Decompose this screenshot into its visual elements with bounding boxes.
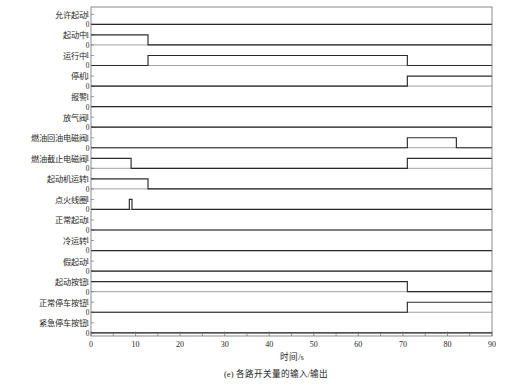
y-tick-high-8: 1: [86, 175, 90, 184]
y-tick-low-14: 0: [86, 308, 90, 317]
x-tick-label-2: 20: [176, 340, 184, 349]
x-tick-label-3: 30: [221, 340, 229, 349]
signal-label-12: 假起动: [63, 257, 87, 267]
signal-label-4: 报警: [71, 92, 87, 102]
y-tick-high-12: 1: [86, 257, 90, 266]
signal-label-15: 紧急停车按钮: [39, 318, 87, 328]
row-labels-layer: 允许起动起动中运行中停机报警放气阀燃油回油电磁阀燃油截止电磁阀起动机运转点火线圈…: [31, 10, 88, 328]
x-tick-label-5: 50: [310, 340, 318, 349]
x-tick-label-1: 10: [132, 340, 140, 349]
y-tick-high-11: 1: [86, 236, 90, 245]
y-tick-low-9: 0: [86, 205, 90, 214]
y-tick-high-10: 1: [86, 216, 90, 225]
signal-label-8: 起动机运转: [47, 174, 87, 184]
y-tick-high-13: 1: [86, 278, 90, 287]
y-tick-low-5: 0: [86, 123, 90, 132]
x-tick-label-9: 90: [488, 340, 496, 349]
x-axis-ticks-layer: 0102030405060708090: [89, 332, 496, 350]
waveform-7: [91, 158, 492, 168]
y-tick-low-6: 0: [86, 144, 90, 153]
y-tick-low-11: 0: [86, 246, 90, 255]
waveform-3: [91, 76, 492, 86]
signal-label-14: 正常停车按钮: [39, 298, 87, 308]
signal-label-7: 燃油截止电磁阀: [31, 154, 87, 164]
waveform-6: [91, 138, 492, 148]
x-tick-label-6: 60: [354, 340, 362, 349]
y-tick-high-0: 1: [86, 10, 90, 19]
x-tick-label-8: 80: [443, 340, 451, 349]
signal-label-9: 点火线圈: [55, 195, 87, 205]
signal-waveforms-layer: [91, 24, 492, 332]
plot-frame: [91, 7, 492, 336]
y-tick-high-15: 1: [86, 319, 90, 328]
y-tick-low-7: 0: [86, 164, 90, 173]
y-tick-low-13: 0: [86, 288, 90, 297]
signal-label-0: 允许起动: [55, 10, 87, 20]
timing-diagram-figure: 允许起动起动中运行中停机报警放气阀燃油回油电磁阀燃油截止电磁阀起动机运转点火线圈…: [0, 0, 507, 386]
x-axis-title: 时间/s: [280, 351, 304, 362]
y-tick-labels-layer: 10101010101010101010101010101010: [86, 10, 90, 337]
y-tick-low-10: 0: [86, 226, 90, 235]
signal-label-6: 燃油回油电磁阀: [31, 133, 87, 143]
y-tick-low-15: 0: [86, 329, 90, 338]
signal-label-2: 运行中: [63, 51, 87, 61]
y-tick-high-6: 1: [86, 134, 90, 143]
signal-label-5: 放气阀: [63, 113, 87, 123]
y-tick-high-14: 1: [86, 298, 90, 307]
waveform-13: [91, 282, 492, 292]
waveform-8: [91, 179, 492, 189]
y-tick-high-7: 1: [86, 154, 90, 163]
y-tick-low-12: 0: [86, 267, 90, 276]
x-tick-label-7: 70: [399, 340, 407, 349]
row-baselines-layer: [91, 14, 492, 332]
x-tick-label-0: 0: [89, 340, 93, 349]
y-tick-high-3: 1: [86, 72, 90, 81]
waveform-2: [91, 55, 492, 65]
y-tick-low-0: 0: [86, 20, 90, 29]
plot-frame-layer: [91, 7, 492, 336]
x-tick-label-4: 40: [265, 340, 273, 349]
signal-label-11: 冷运转: [63, 236, 87, 246]
y-tick-low-8: 0: [86, 185, 90, 194]
timing-diagram-svg: 允许起动起动中运行中停机报警放气阀燃油回油电磁阀燃油截止电磁阀起动机运转点火线圈…: [0, 0, 507, 386]
waveform-14: [91, 302, 492, 312]
y-tick-high-9: 1: [86, 195, 90, 204]
y-tick-high-5: 1: [86, 113, 90, 122]
signal-label-1: 起动中: [63, 30, 87, 40]
y-tick-high-4: 1: [86, 93, 90, 102]
y-tick-high-2: 1: [86, 51, 90, 60]
waveform-1: [91, 35, 492, 45]
y-tick-low-4: 0: [86, 103, 90, 112]
signal-label-13: 起动按钮: [55, 277, 87, 287]
y-tick-high-1: 1: [86, 31, 90, 40]
waveform-9: [91, 199, 492, 209]
y-tick-low-2: 0: [86, 61, 90, 70]
figure-caption: (e) 各路开关量的输入/输出: [224, 368, 328, 379]
y-tick-low-3: 0: [86, 82, 90, 91]
signal-label-10: 正常起动: [55, 215, 87, 225]
y-tick-low-1: 0: [86, 41, 90, 50]
